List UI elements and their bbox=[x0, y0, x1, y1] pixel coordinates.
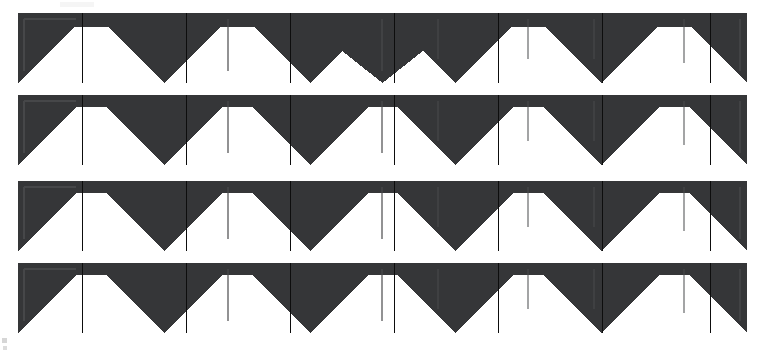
pattern-canvas bbox=[0, 0, 780, 359]
divider-lines bbox=[0, 0, 780, 359]
bottom-left-artifact-icon bbox=[2, 338, 12, 352]
